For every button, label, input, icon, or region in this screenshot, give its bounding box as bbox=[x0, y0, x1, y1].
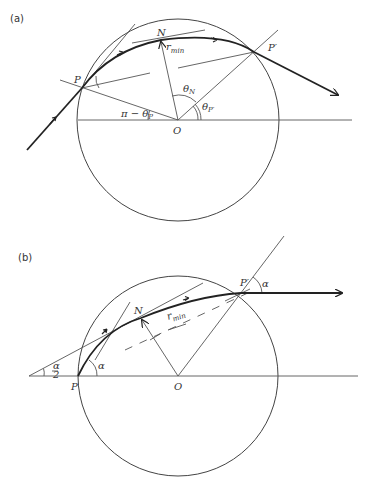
arrow-icon bbox=[102, 329, 107, 334]
panel-a-line-OP bbox=[60, 80, 178, 120]
panel-b-angle-arc-alpha-half bbox=[44, 369, 45, 377]
panel-a-tag: (a) bbox=[10, 13, 24, 24]
label-P: P bbox=[73, 74, 81, 85]
label-O: O bbox=[174, 381, 182, 392]
label-alpha-P-prime: α bbox=[262, 278, 269, 289]
panel-a-aux-P-prime bbox=[178, 52, 254, 68]
label-N: N bbox=[156, 27, 167, 38]
label-O: O bbox=[173, 125, 181, 136]
panel-a-angle-arc-thetaP1 bbox=[193, 106, 198, 120]
panel-b-symmetry-dashed bbox=[125, 292, 250, 350]
label-alpha-P: α bbox=[98, 360, 105, 371]
label-alpha-half-den: 2 bbox=[52, 369, 59, 380]
label-r-min-underline bbox=[168, 324, 186, 330]
label-P-prime: P′ bbox=[267, 42, 278, 53]
label-r-min: rmin bbox=[166, 41, 185, 55]
label-theta-p-prime: θP′ bbox=[202, 101, 215, 114]
label-P-prime: P′ bbox=[239, 277, 250, 288]
panel-b-tag: (b) bbox=[18, 252, 32, 263]
scattering-diagram: (a) P N P′ O rmin π − θP θN θP′ bbox=[0, 0, 371, 492]
arrow-icon bbox=[183, 297, 189, 301]
panel-b-angle-arc-alpha-P bbox=[89, 360, 97, 376]
panel-a-angle-arc-P bbox=[96, 76, 99, 88]
label-pi-minus-theta-p: π − θP bbox=[120, 108, 153, 121]
panel-a: (a) P N P′ O rmin π − θP θN θP′ bbox=[10, 13, 352, 221]
panel-a-angle-arc-thetaN bbox=[172, 95, 196, 102]
panel-b-line-OP-prime bbox=[178, 236, 284, 376]
label-N: N bbox=[133, 305, 144, 316]
label-theta-n: θN bbox=[183, 83, 196, 96]
label-P: P bbox=[70, 381, 78, 392]
arrow-icon bbox=[50, 117, 56, 124]
panel-b: (b) P N P′ O rmin α 2 α bbox=[18, 236, 358, 476]
panel-a-outgoing-ray bbox=[254, 52, 338, 95]
panel-b-angle-arc-alpha-P-prime bbox=[253, 277, 262, 293]
